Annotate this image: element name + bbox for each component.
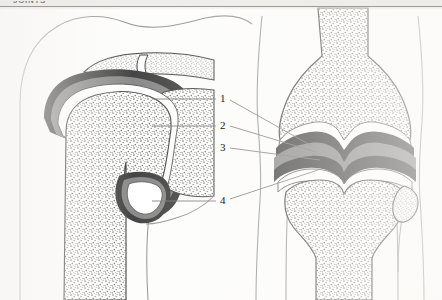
label-2: 2 bbox=[220, 120, 226, 131]
label-4: 4 bbox=[220, 195, 226, 206]
label-3: 3 bbox=[220, 142, 226, 153]
label-1: 1 bbox=[220, 93, 226, 104]
shoulder-panel bbox=[20, 16, 252, 300]
tibia-bone bbox=[285, 180, 405, 300]
knee-panel bbox=[256, 8, 424, 300]
header-divider-rule bbox=[0, 6, 442, 7]
figure-page: JOINTS 1 2 3 4 bbox=[0, 0, 442, 300]
